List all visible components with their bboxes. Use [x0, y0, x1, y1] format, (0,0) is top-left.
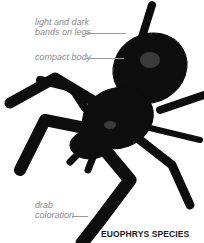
annotation-drab-coloration: drab coloration — [35, 200, 74, 220]
leader-line — [72, 216, 88, 217]
annotation-leg-bands: light and dark bands on legs — [35, 17, 91, 37]
annotation-text: coloration — [35, 210, 74, 220]
leader-line — [86, 58, 124, 59]
leader-line — [86, 33, 126, 34]
annotation-text: light and dark — [35, 17, 91, 27]
annotation-text: bands on legs — [35, 27, 91, 37]
species-caption: EUOPHRYS SPECIES — [101, 229, 189, 239]
annotation-text: compact body — [35, 52, 91, 62]
spider-illustration — [0, 0, 204, 243]
annotation-text: drab — [35, 200, 74, 210]
annotation-compact-body: compact body — [35, 52, 91, 62]
spider-figure: light and dark bands on legs compact bod… — [0, 0, 204, 243]
